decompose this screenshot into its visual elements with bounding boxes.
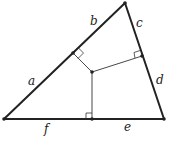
label-a: a [28, 74, 35, 88]
perpendicular-to-bc [92, 56, 142, 72]
interior-point [90, 70, 94, 74]
label-f: f [43, 122, 51, 136]
label-e: e [124, 120, 131, 134]
right-angle-marker-ab [78, 48, 84, 59]
label-d: d [156, 73, 164, 87]
triangle-diagram: a b c d e f [0, 0, 169, 141]
label-c: c [136, 16, 143, 30]
label-b: b [90, 14, 98, 28]
perpendicular-to-ab [73, 53, 92, 72]
vertex-c [162, 117, 166, 121]
foot-ab [71, 51, 75, 55]
foot-bc [140, 54, 144, 58]
vertex-a [2, 117, 6, 121]
foot-ca [90, 117, 94, 121]
vertex-b [123, 1, 127, 5]
